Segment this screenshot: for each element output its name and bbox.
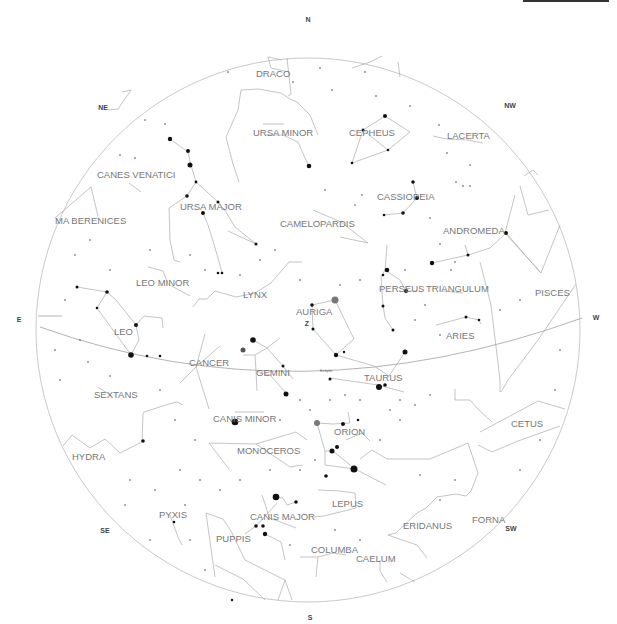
faint-stars [54,67,561,571]
label-lacerta[interactable]: LACERTA [447,130,491,141]
label-aries[interactable]: ARIES [446,330,475,341]
label-ursa-major[interactable]: URSA MAJOR [180,201,242,212]
label-fornax[interactable]: FORNA [472,514,506,525]
label-columba[interactable]: COLUMBA [311,544,359,555]
label-leo[interactable]: LEO [114,326,133,337]
label-cancer[interactable]: CANCER [189,357,229,368]
label-sextans[interactable]: SEXTANS [94,389,138,400]
label-puppis[interactable]: PUPPIS [216,533,251,544]
label-cetus[interactable]: CETUS [511,418,543,429]
label-lepus[interactable]: LEPUS [332,498,363,509]
label-coma-berenices[interactable]: MA BERENICES [55,215,126,226]
label-triangulum[interactable]: TRIANGULUM [426,283,489,294]
label-lynx[interactable]: LYNX [243,289,268,300]
label-caelum[interactable]: CAELUM [356,553,396,564]
compass-labels: N NE NW E W SE SW S [17,16,600,621]
label-canes-venatici[interactable]: CANES VENATICI [97,169,175,180]
direction-e: E [17,316,22,323]
label-auriga[interactable]: AURIGA [296,306,333,317]
direction-nw: NW [504,102,516,109]
label-monoceros[interactable]: MONOCEROS [237,445,300,456]
label-andromeda[interactable]: ANDROMEDA [443,225,505,236]
label-canis-major[interactable]: CANIS MAJOR [250,511,315,522]
label-pyxis[interactable]: PYXIS [159,509,187,520]
label-draco[interactable]: DRACO [256,68,290,79]
direction-n: N [305,16,310,23]
label-cassiopeia[interactable]: CASSIOPEIA [377,191,435,202]
label-ursa-minor[interactable]: URSA MINOR [253,127,313,138]
label-eridanus[interactable]: ERIDANUS [403,520,452,531]
direction-se: SE [100,527,110,534]
label-orion[interactable]: ORION [334,426,365,437]
direction-s: S [308,614,313,621]
label-pisces[interactable]: PISCES [535,287,570,298]
sky-map[interactable]: Ecliptic N NE NW E W SE SW S DRACO URSA … [0,0,617,624]
label-taurus[interactable]: TAURUS [364,372,402,383]
label-camelopardis[interactable]: CAMELOPARDIS [280,218,355,229]
direction-sw: SW [505,525,517,532]
label-hydra[interactable]: HYDRA [72,451,106,462]
label-perseus[interactable]: PERSEUS [379,283,424,294]
ecliptic-label: Ecliptic [320,368,333,373]
zenith-marker: Z [305,320,310,327]
direction-ne: NE [98,104,108,111]
label-leo-minor[interactable]: LEO MINOR [136,277,189,288]
label-cepheus[interactable]: CEPHEUS [349,127,395,138]
label-gemini[interactable]: GEMINI [256,367,290,378]
label-canis-minor[interactable]: CANIS MINOR [213,413,276,424]
direction-w: W [593,314,600,321]
